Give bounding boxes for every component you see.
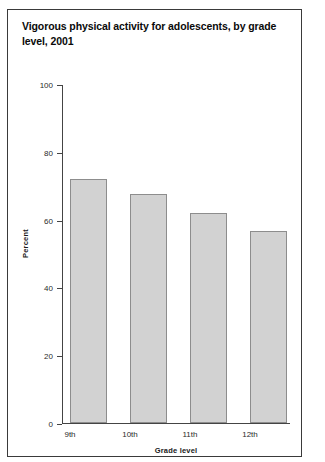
y-tick-1: 20: [57, 356, 62, 357]
x-tick-label-0: 9th: [40, 430, 100, 439]
y-tick-label-0: 0: [49, 420, 53, 429]
y-tick-label-3: 60: [44, 216, 53, 225]
chart-title: Vigorous physical activity for adolescen…: [22, 19, 280, 49]
y-tick-label-4: 80: [44, 148, 53, 157]
y-axis-line: [62, 85, 63, 424]
x-tick-label-3: 12th: [220, 430, 280, 439]
bar-1: [130, 194, 167, 423]
x-axis-line: [62, 423, 290, 424]
figure-panel: Vigorous physical activity for adolescen…: [0, 0, 325, 462]
plot-area: 0 20 40 60 80 100: [62, 85, 290, 424]
y-tick-5: 100: [57, 85, 62, 86]
bar-3: [250, 231, 287, 423]
x-axis-title: Grade level: [62, 446, 290, 455]
y-axis-title: Percent: [21, 229, 30, 258]
bar-0: [70, 179, 107, 423]
y-tick-3: 60: [57, 221, 62, 222]
bar-2: [190, 213, 227, 423]
y-tick-label-1: 20: [44, 352, 53, 361]
y-tick-label-5: 100: [40, 81, 53, 90]
y-tick-4: 80: [57, 153, 62, 154]
x-tick-label-1: 10th: [100, 430, 160, 439]
y-tick-2: 40: [57, 288, 62, 289]
y-tick-0: 0: [57, 424, 62, 425]
y-tick-label-2: 40: [44, 284, 53, 293]
x-tick-label-2: 11th: [160, 430, 220, 439]
